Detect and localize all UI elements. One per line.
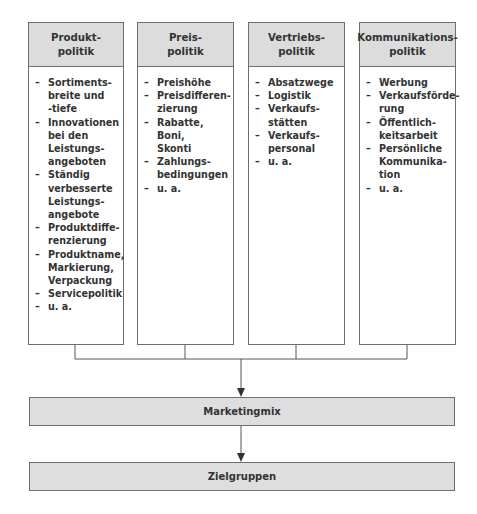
arrow-down-icon [237, 388, 245, 397]
list-item: Preishöhe [144, 76, 229, 89]
list-item: Persönliche Kommunika- tion [366, 142, 451, 182]
list-item: Zahlungs- bedingungen [144, 155, 229, 181]
list-item: Werbung [366, 76, 451, 89]
list-item: Innovationen bei den Leistungs- angebote… [35, 116, 119, 169]
column-preispolitik: Preis- politik Preishöhe Preisdifferen- … [137, 22, 234, 345]
marketingmix-box: Marketingmix [29, 397, 455, 426]
list-item: Logistik [255, 89, 340, 102]
column-list: Absatzwege Logistik Verkaufs- stätten Ve… [249, 67, 344, 168]
column-kommunikationspolitik: Kommunikations- politik Werbung Verkaufs… [359, 22, 456, 345]
column-list: Preishöhe Preisdifferen- zierung Rabatte… [138, 67, 233, 195]
arrow-down-icon [237, 453, 245, 462]
list-item: Preisdifferen- zierung [144, 89, 229, 115]
column-header: Kommunikations- politik [360, 23, 455, 67]
column-list: Werbung Verkaufsförde- rung Öffentlich- … [360, 67, 455, 195]
list-item: u. a. [366, 182, 451, 195]
column-header: Produkt- politik [29, 23, 123, 67]
list-item: u. a. [144, 182, 229, 195]
column-header: Vertriebs- politik [249, 23, 344, 67]
list-item: Absatzwege [255, 76, 340, 89]
list-item: u. a. [35, 300, 119, 313]
list-item: Verkaufs- stätten [255, 102, 340, 128]
list-item: Servicepolitik [35, 287, 119, 300]
column-header: Preis- politik [138, 23, 233, 67]
column-vertriebspolitik: Vertriebs- politik Absatzwege Logistik V… [248, 22, 345, 345]
column-list: Sortiments- breite und -tiefe Innovation… [29, 67, 123, 314]
list-item: Öffentlich- keitsarbeit [366, 116, 451, 142]
list-item: Ständig verbesserte Leistungs- angebote [35, 168, 119, 221]
list-item: Sortiments- breite und -tiefe [35, 76, 119, 116]
zielgruppen-box: Zielgruppen [29, 462, 455, 491]
list-item: Verkaufs- personal [255, 129, 340, 155]
list-item: Produktdiffe- renzierung [35, 221, 119, 247]
list-item: Produktname, Markierung, Verpackung [35, 248, 119, 288]
list-item: u. a. [255, 155, 340, 168]
list-item: Rabatte, Boni, Skonti [144, 116, 229, 156]
column-produktpolitik: Produkt- politik Sortiments- breite und … [28, 22, 124, 345]
list-item: Verkaufsförde- rung [366, 89, 451, 115]
